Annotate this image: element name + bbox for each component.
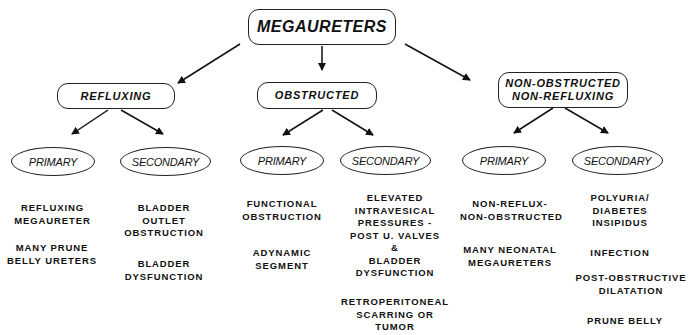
obstructed-secondary-item-1: ELEVATED INTRAVESICAL PRESSURES - POST U… bbox=[340, 192, 450, 280]
nonobstructed-secondary-item-2: INFECTION bbox=[575, 247, 665, 260]
refluxing-primary: PRIMARY bbox=[11, 147, 95, 176]
refluxing-primary-item-1: REFLUXING MEGAURETER bbox=[10, 202, 95, 227]
obstructed-secondary-item-2: RETROPERITONEAL SCARRING OR TUMOR bbox=[340, 296, 450, 334]
refluxing-secondary: SECONDARY bbox=[120, 147, 211, 176]
megaureters-diagram: MEGAURETERS REFLUXING OBSTRUCTED NON-OBS… bbox=[0, 0, 692, 335]
root-node-megaureters: MEGAURETERS bbox=[248, 9, 396, 45]
category-obstructed: OBSTRUCTED bbox=[257, 82, 377, 109]
obstructed-primary: PRIMARY bbox=[240, 146, 324, 175]
obstructed-primary-item-2: ADYNAMIC SEGMENT bbox=[238, 247, 326, 272]
refluxing-primary-item-2: MANY PRUNE BELLY URETERS bbox=[4, 242, 100, 267]
category-non-obstructed-non-refluxing: NON-OBSTRUCTED NON-REFLUXING bbox=[498, 72, 628, 108]
nonobstructed-secondary-item-3: POST-OBSTRUCTIVE DILATATION bbox=[570, 272, 692, 297]
nonobstructed-secondary-item-1: POLYURIA/ DIABETES INSIPIDUS bbox=[580, 192, 660, 230]
nonobstructed-secondary-item-4: PRUNE BELLY bbox=[575, 315, 675, 328]
nonobstructed-primary-item-2: MANY NEONATAL MEGAURETERS bbox=[460, 244, 560, 269]
refluxing-secondary-item-2: BLADDER DYSFUNCTION bbox=[118, 258, 210, 283]
nonobstructed-primary: PRIMARY bbox=[462, 146, 546, 175]
obstructed-secondary: SECONDARY bbox=[340, 146, 431, 175]
nonobstructed-primary-item-1: NON-REFLUX- NON-OBSTRUCTED bbox=[460, 198, 560, 223]
nonobstructed-secondary: SECONDARY bbox=[572, 146, 663, 175]
obstructed-primary-item-1: FUNCTIONAL OBSTRUCTION bbox=[238, 198, 326, 223]
refluxing-secondary-item-1: BLADDER OUTLET OBSTRUCTION bbox=[118, 202, 210, 240]
category-refluxing: REFLUXING bbox=[57, 83, 175, 109]
